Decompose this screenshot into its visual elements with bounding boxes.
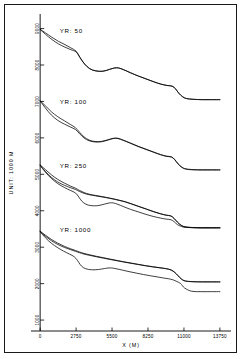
series-annotation: YR: 50 xyxy=(60,27,83,34)
profile-curve xyxy=(40,231,220,282)
y-tick-label: 7000 xyxy=(35,96,40,107)
x-axis-title: X (M) xyxy=(122,342,140,348)
y-tick-label: 3000 xyxy=(35,241,40,252)
series-annotation: YR: 250 xyxy=(60,162,87,169)
series-annotation: YR: 100 xyxy=(60,98,87,105)
x-tick-label: 8250 xyxy=(142,334,153,339)
profile-curves-group xyxy=(40,29,220,291)
y-tick-label: 8000 xyxy=(35,59,40,70)
profile-curve xyxy=(40,29,220,99)
x-tick-label: 11000 xyxy=(177,334,191,339)
profile-curve xyxy=(40,165,220,228)
profile-curve xyxy=(40,165,220,228)
y-axis-title: UNIT: 1000 M xyxy=(8,151,14,195)
y-tick-label: 4000 xyxy=(35,205,40,216)
profile-curve xyxy=(40,101,220,170)
profile-curve xyxy=(40,101,220,170)
y-tick-label: 6000 xyxy=(35,132,40,143)
y-tick-label: 5000 xyxy=(35,169,40,180)
profile-curve xyxy=(40,231,220,282)
x-tick-label: 5500 xyxy=(107,334,118,339)
y-tick-label: 1000 xyxy=(35,314,40,325)
profile-curve xyxy=(40,29,220,99)
series-annotation: YR: 1000 xyxy=(60,226,91,233)
profile-curve xyxy=(40,165,220,228)
x-tick-label: 2750 xyxy=(71,334,82,339)
y-tick-label: 2000 xyxy=(35,278,40,289)
y-tick-label: 9000 xyxy=(35,23,40,34)
x-tick-label: 13750 xyxy=(213,334,227,339)
figure-container: 1000200030004000500060007000800090000275… xyxy=(0,0,243,359)
x-tick-label: 0 xyxy=(39,334,42,339)
tick-marks-group xyxy=(40,29,220,331)
profile-plot: 1000200030004000500060007000800090000275… xyxy=(0,0,243,359)
text-labels-group: 1000200030004000500060007000800090000275… xyxy=(8,23,227,348)
profile-curve xyxy=(40,232,220,292)
axes-group xyxy=(31,14,231,331)
